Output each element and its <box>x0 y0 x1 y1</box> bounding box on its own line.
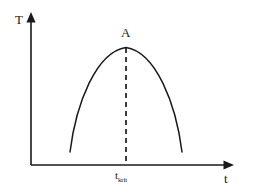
y-axis-label: T <box>15 13 23 26</box>
arrow-right-icon <box>224 160 235 169</box>
critical-time-tick-label: tkrit <box>115 170 127 184</box>
temperature-curve <box>70 48 182 153</box>
temperature-time-diagram: T t A tkrit <box>0 0 255 196</box>
arrow-up-icon <box>26 12 35 23</box>
critical-time-subscript: krit <box>118 176 127 184</box>
x-axis-label: t <box>224 172 228 185</box>
peak-point-label: A <box>121 26 130 39</box>
